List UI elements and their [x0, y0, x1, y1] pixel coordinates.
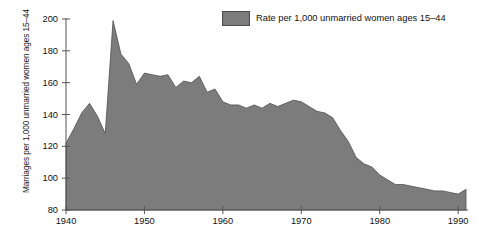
x-tick-label: 1970 [281, 216, 321, 226]
y-tick-label: 100 [32, 173, 58, 183]
x-tick-label: 1960 [203, 216, 243, 226]
y-tick-label: 200 [32, 14, 58, 24]
y-tick-label: 80 [32, 205, 58, 215]
marriage-rate-area-chart: Marriages per 1,000 unmarried women ages… [0, 0, 490, 240]
series-area-rate-per-1000 [66, 21, 466, 210]
y-axis-title: Marriages per 1,000 unmarried women ages… [21, 1, 31, 201]
x-tick-label: 1980 [360, 216, 400, 226]
x-tick-label: 1940 [46, 216, 86, 226]
y-tick-label: 120 [32, 141, 58, 151]
legend: Rate per 1,000 unmarried women ages 15–4… [222, 11, 446, 26]
legend-swatch-icon [222, 11, 250, 26]
y-tick-label: 160 [32, 78, 58, 88]
y-tick-label: 180 [32, 46, 58, 56]
x-tick-label: 1950 [124, 216, 164, 226]
y-tick-label: 140 [32, 110, 58, 120]
legend-label: Rate per 1,000 unmarried women ages 15–4… [256, 13, 446, 24]
x-tick-label: 1990 [438, 216, 478, 226]
plot-area [0, 0, 490, 240]
